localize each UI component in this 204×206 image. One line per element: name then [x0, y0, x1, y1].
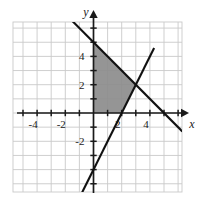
- x-tick-label: 4: [143, 118, 149, 130]
- y-tick-label: -2: [75, 135, 84, 147]
- y-axis-label: y: [82, 5, 89, 19]
- graph-canvas: -4-22442-2 y x: [0, 0, 204, 206]
- y-tick-label: 4: [79, 50, 85, 62]
- plotted-lines: [68, 17, 182, 206]
- y-tick-label: 2: [79, 79, 85, 91]
- x-axis-label: x: [188, 117, 195, 131]
- coordinate-plane-figure: -4-22442-2 y x: [0, 0, 204, 206]
- x-tick-label: -2: [57, 118, 66, 130]
- x-tick-label: -4: [29, 118, 39, 130]
- line-descending-line: [68, 17, 182, 132]
- x-tick-label: 2: [115, 118, 121, 130]
